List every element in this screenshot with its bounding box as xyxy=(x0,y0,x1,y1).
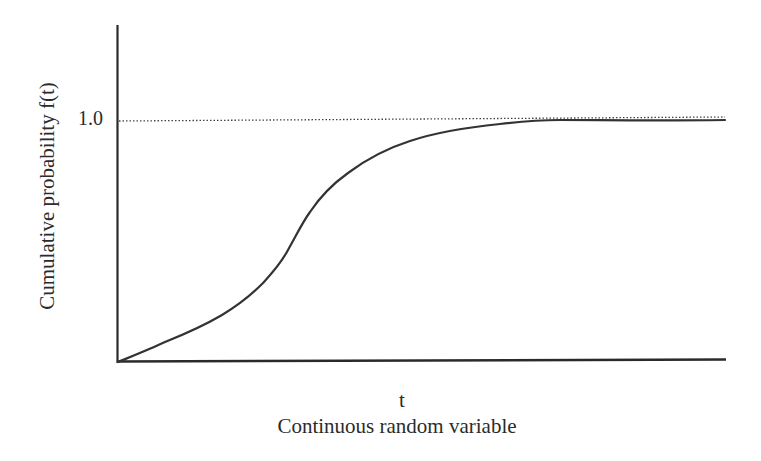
cdf-chart xyxy=(0,0,761,461)
x-axis-label: Continuous random variable xyxy=(277,414,516,439)
cdf-curve xyxy=(118,120,725,362)
y-axis-label: Cumulative probability f(t) xyxy=(35,82,60,309)
x-axis-symbol: t xyxy=(399,388,405,413)
y-tick-label-1: 1.0 xyxy=(78,107,103,130)
x-axis xyxy=(117,360,726,362)
